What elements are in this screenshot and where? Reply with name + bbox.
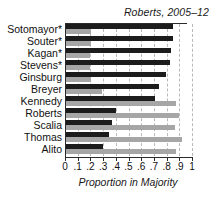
bar-light <box>66 77 91 82</box>
bar-light <box>66 113 179 118</box>
bar-row-label: Stevens* <box>0 59 62 71</box>
bar-light <box>66 137 182 142</box>
bar-row-label: Thomas <box>0 131 62 143</box>
bar-light <box>66 89 102 94</box>
bar-row-label: Alito <box>0 143 62 155</box>
bar-row-label: Sotomayor* <box>0 23 62 35</box>
bar-row-label: Kagan* <box>0 47 62 59</box>
bar-rows-group: Sotomayor*Souter*Kagan*Stevens*GinsburgB… <box>0 24 215 156</box>
bar-light <box>66 125 175 130</box>
bar-row-label: Scalia <box>0 119 62 131</box>
bar-light <box>66 149 176 154</box>
bar-light <box>66 65 90 70</box>
bar-light <box>66 29 91 34</box>
bar-light <box>66 53 90 58</box>
bar-light <box>66 101 176 106</box>
bar-row: Alito <box>0 144 215 156</box>
chart-container: Roberts, 2005–12 Sotomayor*Souter*Kagan*… <box>0 0 215 201</box>
bar-light <box>66 41 91 46</box>
x-axis-tick-label: 1 <box>182 161 202 173</box>
bar-row-label: Souter* <box>0 35 62 47</box>
x-axis-title: Proportion in Majority <box>48 176 208 188</box>
bar-row-label: Kennedy <box>0 95 62 107</box>
bar-row-label: Breyer <box>0 83 62 95</box>
bar-row-label: Ginsburg <box>0 71 62 83</box>
bar-row-label: Roberts <box>0 107 62 119</box>
chart-title: Roberts, 2005–12 <box>0 6 209 18</box>
